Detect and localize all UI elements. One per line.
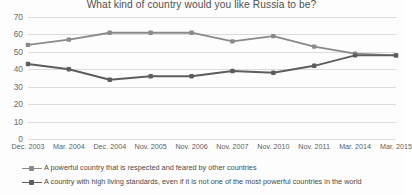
y-axis-tick-label: 20 <box>14 100 23 108</box>
series-line <box>28 55 396 79</box>
y-axis-tick-label: 50 <box>14 48 23 56</box>
legend-line-marker-icon <box>22 178 42 186</box>
x-axis-tick-label: Nov. 2007 <box>216 143 248 150</box>
data-point-marker <box>353 53 357 57</box>
x-axis: Dec. 2003Mar. 2004Dec. 2004Nov. 2005Nov.… <box>22 143 403 155</box>
data-point-marker <box>108 30 112 34</box>
data-point-marker <box>271 34 275 38</box>
data-point-marker <box>148 30 152 34</box>
data-point-marker <box>271 71 275 75</box>
data-point-marker <box>26 62 30 66</box>
y-axis-tick-label: 40 <box>14 65 23 73</box>
legend-label: A powerful country that is respected and… <box>44 164 257 171</box>
x-axis-tick-label: Mar. 2015 <box>380 143 412 150</box>
y-axis-tick-label: 10 <box>14 117 23 125</box>
data-point-marker <box>230 39 234 43</box>
series-layer <box>28 17 396 139</box>
data-point-marker <box>67 37 71 41</box>
data-point-marker <box>108 78 112 82</box>
x-axis-tick-label: Nov. 2006 <box>175 143 207 150</box>
data-point-marker <box>148 74 152 78</box>
y-axis: 706050403020100 <box>0 17 26 139</box>
legend-label: A country with high living standards, ev… <box>44 178 362 185</box>
data-point-marker <box>394 53 398 57</box>
y-axis-tick-label: 60 <box>14 30 23 38</box>
x-axis-tick-label: Dec. 2003 <box>12 143 45 150</box>
series-line <box>28 33 396 56</box>
gridline <box>28 139 396 140</box>
legend-line-marker-icon <box>22 164 42 172</box>
x-axis-tick-label: Mar. 2004 <box>53 143 85 150</box>
x-axis-tick-label: Nov. 2010 <box>257 143 289 150</box>
y-axis-tick-label: 70 <box>14 13 23 21</box>
chart-legend: A powerful country that is respected and… <box>22 161 403 189</box>
x-axis-tick-label: Mar. 2014 <box>339 143 371 150</box>
data-point-marker <box>312 64 316 68</box>
data-point-marker <box>26 43 30 47</box>
data-point-marker <box>189 74 193 78</box>
legend-item[interactable]: A powerful country that is respected and… <box>22 161 403 175</box>
data-point-marker <box>312 44 316 48</box>
data-point-marker <box>189 30 193 34</box>
data-point-marker <box>67 67 71 71</box>
data-series <box>26 53 398 82</box>
chart-title: What kind of country would you like Russ… <box>0 0 403 10</box>
data-point-marker <box>230 69 234 73</box>
legend-item[interactable]: A country with high living standards, ev… <box>22 175 403 189</box>
plot-area <box>28 17 396 139</box>
data-series <box>26 30 398 57</box>
x-axis-tick-label: Dec. 2004 <box>93 143 126 150</box>
x-axis-tick-label: Nov. 2005 <box>135 143 167 150</box>
y-axis-tick-label: 30 <box>14 83 23 91</box>
x-axis-tick-label: Nov. 2011 <box>298 143 330 150</box>
